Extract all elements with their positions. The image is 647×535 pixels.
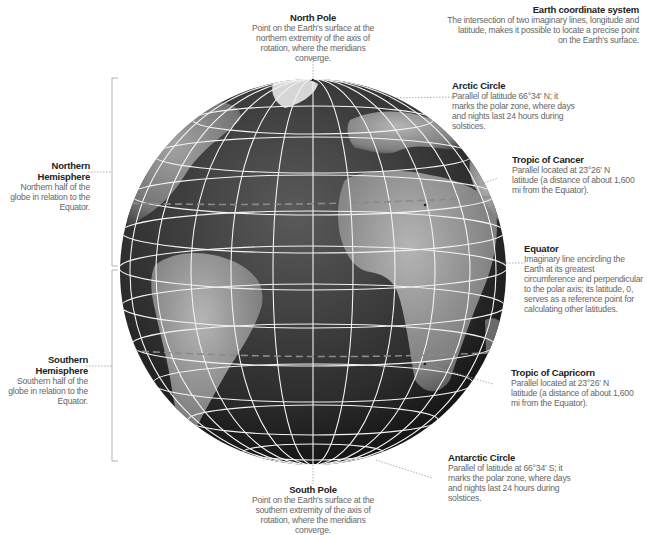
antarctic-circle-description: Parallel of latitude at 66°34' S; it mar… xyxy=(448,463,573,503)
label-antarctic-circle: Antarctic Circle Parallel of latitude at… xyxy=(448,452,573,503)
north-pole-title: North Pole xyxy=(246,12,380,23)
title-description: The intersection of two imaginary lines,… xyxy=(447,15,639,45)
northern-hemisphere-title: Northern Hemisphere xyxy=(4,160,90,182)
label-arctic-circle: Arctic Circle Parallel of latitude 66°34… xyxy=(452,80,577,131)
southern-hemisphere-description: Southern half of the globe in relation t… xyxy=(4,376,88,406)
south-pole-title: South Pole xyxy=(246,484,380,495)
tropic-of-cancer-title: Tropic of Cancer xyxy=(512,154,637,165)
label-equator: Equator Imaginary line encircling the Ea… xyxy=(524,243,646,314)
label-north-pole: North Pole Point on the Earth's surface … xyxy=(246,12,380,63)
label-northern-hemisphere: Northern Hemisphere Northern half of the… xyxy=(4,160,90,212)
tropic-of-cancer-description: Parallel located at 23°26' N latitude (a… xyxy=(512,165,637,195)
arctic-circle-description: Parallel of latitude 66°34' N; it marks … xyxy=(452,91,577,131)
label-south-pole: South Pole Point on the Earth's surface … xyxy=(246,484,380,535)
tropic-of-capricorn-title: Tropic of Capricorn xyxy=(511,367,636,378)
south-pole-description: Point on the Earth's surface at the sout… xyxy=(246,495,380,535)
antarctic-circle-title: Antarctic Circle xyxy=(448,452,573,463)
page-title: Earth coordinate system xyxy=(447,4,639,15)
label-tropic-of-capricorn: Tropic of Capricorn Parallel located at … xyxy=(511,367,636,408)
southern-hemisphere-title: Southern Hemisphere xyxy=(4,354,88,376)
north-pole-description: Point on the Earth's surface at the nort… xyxy=(246,23,380,63)
tropic-of-capricorn-description: Parallel located at 23°26' N latitude (a… xyxy=(511,378,636,408)
northern-hemisphere-description: Northern half of the globe in relation t… xyxy=(4,182,90,212)
title-block: Earth coordinate system The intersection… xyxy=(447,4,639,45)
arctic-circle-title: Arctic Circle xyxy=(452,80,577,91)
label-southern-hemisphere: Southern Hemisphere Southern half of the… xyxy=(4,354,88,406)
label-tropic-of-cancer: Tropic of Cancer Parallel located at 23°… xyxy=(512,154,637,195)
equator-description: Imaginary line encircling the Earth at i… xyxy=(524,254,646,314)
equator-title: Equator xyxy=(524,243,646,254)
hemisphere-bracket xyxy=(112,78,118,461)
